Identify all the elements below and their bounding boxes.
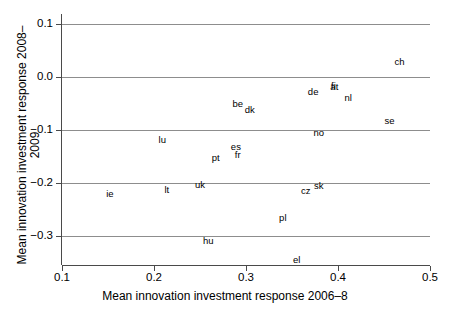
x-tick-label: 0.1	[42, 272, 82, 284]
x-tick-label: 0.4	[318, 272, 358, 284]
x-axis-title: Mean innovation investment response 2006…	[0, 290, 450, 303]
data-point-label: ch	[395, 57, 405, 67]
x-tick-label: 0.3	[226, 272, 266, 284]
x-tick-label: 0.2	[134, 272, 174, 284]
data-point-label: pt	[212, 153, 220, 163]
data-point-label: hu	[203, 236, 214, 246]
data-point-label: se	[384, 116, 394, 126]
y-tick-mark	[56, 183, 61, 184]
data-point-label: sk	[314, 181, 324, 191]
data-point-label: cz	[301, 186, 311, 196]
data-point-label: be	[232, 99, 243, 109]
y-axis-title: Mean innovation investment response 2008…	[16, 20, 42, 270]
data-point-label: fr	[235, 150, 241, 160]
data-point-label: uk	[195, 180, 205, 190]
x-tick-label: 0.5	[410, 272, 450, 284]
data-point-label: at	[330, 82, 338, 92]
data-point-label: de	[308, 88, 319, 98]
data-point-label: no	[313, 128, 324, 138]
data-point-label: ie	[106, 189, 113, 199]
y-tick-mark	[56, 130, 61, 131]
data-point-label: pl	[279, 213, 286, 223]
data-point-label: lt	[165, 185, 170, 195]
data-point-label: nl	[344, 93, 351, 103]
data-point-label: el	[293, 255, 300, 265]
plot-area: chfiatdenlbedksenoluesfrptukskltczieplhu…	[62, 18, 430, 265]
y-tick-mark	[56, 236, 61, 237]
data-point-label: dk	[245, 105, 255, 115]
y-tick-mark	[56, 77, 61, 78]
y-tick-mark	[56, 24, 61, 25]
scatter-chart: 0.10.0−0.1−0.2−0.3 0.10.20.30.40.5 chfia…	[0, 0, 450, 312]
data-point-label: lu	[159, 135, 166, 145]
